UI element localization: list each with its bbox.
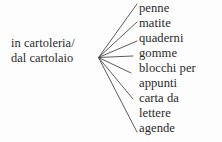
connector-line-5: [99, 58, 132, 74]
source-term-line-1: in cartoleria/: [11, 36, 97, 51]
connector-line-6: [99, 58, 134, 100]
source-term-label: in cartoleria/ dal cartolaio: [11, 36, 97, 66]
item-text-row-5: blocchi per: [139, 61, 221, 76]
word-web-diagram: in cartoleria/ dal cartolaio penne matit…: [0, 0, 222, 142]
item-text-row-2: matite: [139, 16, 221, 31]
item-text-row-8: lettere: [139, 106, 221, 121]
source-term-line-2: dal cartolaio: [11, 51, 97, 66]
item-text-row-3: quaderni: [139, 31, 221, 46]
item-text-row-1: penne: [139, 1, 221, 16]
connector-line-2: [99, 22, 138, 58]
item-text-row-7: carta da: [139, 91, 221, 106]
connector-line-4: [99, 56, 134, 58]
item-text-row-4: gomme: [139, 46, 221, 61]
item-text-row-6: appunti: [139, 76, 221, 91]
item-list: penne matite quaderni gomme blocchi per …: [139, 1, 221, 136]
item-text-row-9: agende: [139, 121, 221, 136]
connector-line-7: [99, 58, 138, 133]
